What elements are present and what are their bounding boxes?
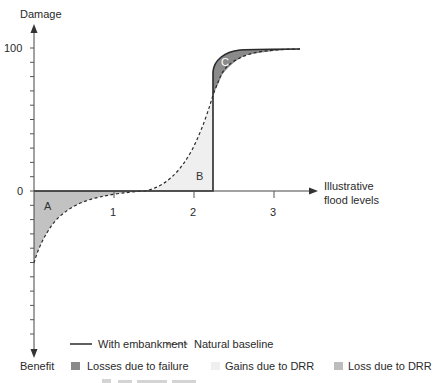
- x-tick-1: 1: [110, 206, 116, 218]
- y-axis-label-damage: Damage: [20, 8, 62, 20]
- x-tick-2: 2: [190, 206, 196, 218]
- legend-loss-drr: Loss due to DRR: [348, 360, 432, 372]
- natural-baseline-curve: [34, 49, 300, 263]
- y-axis-label-benefit: Benefit: [20, 360, 54, 372]
- y-tick-100: 100: [4, 42, 22, 54]
- region-label-c: C: [221, 56, 229, 68]
- x-axis-label-line2: flood levels: [324, 194, 380, 206]
- legend-natural-baseline: Natural baseline: [194, 338, 274, 350]
- legend-gains-drr: Gains due to DRR: [225, 360, 314, 372]
- x-axis-label-line1: Illustrative: [324, 180, 374, 192]
- clipped-caption-remnant: [102, 379, 196, 383]
- legend: With embankment Natural baseline Losses …: [70, 338, 432, 372]
- y-axis-arrow-down-icon: [31, 349, 38, 358]
- with-embankment-curve: [34, 49, 300, 191]
- legend-swatch-gains-drr: [211, 362, 220, 370]
- region-label-b: B: [196, 170, 203, 182]
- y-tick-0: 0: [17, 185, 23, 197]
- legend-swatch-losses-failure: [71, 362, 80, 370]
- x-tick-3: 3: [270, 206, 276, 218]
- x-axis-arrow-right-icon: [309, 188, 318, 195]
- y-axis-arrow-up-icon: [31, 24, 38, 33]
- legend-losses-failure: Losses due to failure: [87, 360, 189, 372]
- flood-damage-chart: Damage 100 0 1 2 3 Illustrative flood le…: [0, 0, 433, 383]
- y-axis-ticks: [30, 48, 34, 334]
- region-label-a: A: [44, 200, 52, 212]
- legend-swatch-loss-drr: [334, 362, 343, 370]
